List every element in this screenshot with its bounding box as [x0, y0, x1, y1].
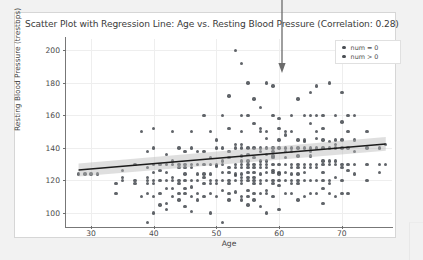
page-edge-sliver: [409, 222, 423, 260]
screenshot-root: Scatter Plot with Regression Line: Age v…: [0, 0, 423, 260]
y-tick-label: 180: [26, 78, 60, 87]
x-tick-mark: [216, 226, 217, 229]
y-tick-label: 120: [26, 176, 60, 185]
x-tick-label: 60: [264, 229, 294, 238]
plot-area: 1001201401601802003040506070: [66, 39, 392, 226]
x-tick-label: 70: [327, 229, 357, 238]
y-tick-label: 160: [26, 111, 60, 120]
regression-line: [79, 144, 386, 170]
plot-canvas: [66, 39, 392, 226]
chart-figure-card: Scatter Plot with Regression Line: Age v…: [14, 12, 396, 238]
x-axis-label: Age: [66, 239, 392, 248]
x-tick-label: 50: [201, 229, 231, 238]
x-tick-mark: [154, 226, 155, 229]
chart-title: Scatter Plot with Regression Line: Age v…: [25, 19, 393, 29]
y-tick-label: 100: [26, 208, 60, 217]
y-axis-label: Resting Blood Pressure (trestbps): [13, 8, 22, 131]
x-tick-mark: [279, 226, 280, 229]
x-tick-label: 40: [139, 229, 169, 238]
y-tick-label: 140: [26, 143, 60, 152]
x-tick-mark: [342, 226, 343, 229]
x-tick-mark: [91, 226, 92, 229]
x-tick-label: 30: [76, 229, 106, 238]
y-tick-label: 200: [26, 46, 60, 55]
